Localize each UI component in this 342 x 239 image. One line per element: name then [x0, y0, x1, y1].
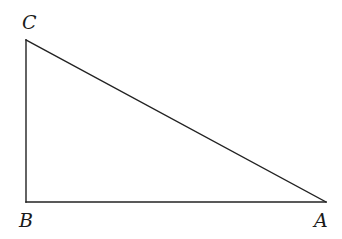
triangle-diagram: C B A [0, 0, 342, 239]
vertex-label-b: B [18, 209, 33, 231]
hypotenuse-ac [26, 40, 326, 202]
vertex-label-a: A [312, 209, 328, 231]
vertex-label-c: C [22, 11, 37, 33]
